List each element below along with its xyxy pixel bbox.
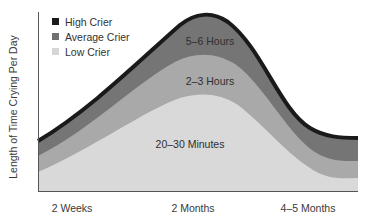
x-tick-4-5-months: 4–5 Months [281, 202, 336, 214]
band-label-low: 20–30 Minutes [156, 138, 225, 150]
legend-swatch-low-crier [52, 48, 59, 55]
y-axis-label: Length of Time Crying Per Day [6, 22, 20, 192]
band-label-high: 5–6 Hours [186, 35, 234, 47]
legend-item-high-crier: High Crier [52, 14, 130, 29]
legend-swatch-average-crier [52, 33, 59, 40]
legend: High Crier Average Crier Low Crier [52, 14, 130, 59]
legend-item-average-crier: Average Crier [52, 29, 130, 44]
legend-item-low-crier: Low Crier [52, 44, 130, 59]
x-tick-2-weeks: 2 Weeks [52, 202, 93, 214]
legend-swatch-high-crier [52, 18, 59, 25]
band-label-average: 2–3 Hours [186, 75, 234, 87]
x-tick-2-months: 2 Months [171, 202, 214, 214]
